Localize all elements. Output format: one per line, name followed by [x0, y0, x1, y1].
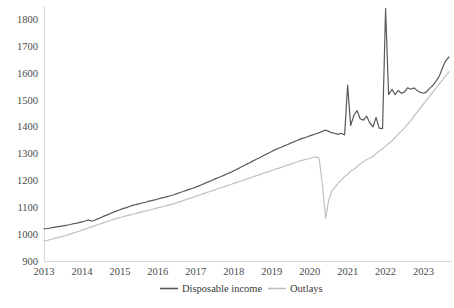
x-tick-label: 2015 — [109, 266, 130, 277]
legend-label-disposable-income: Disposable income — [182, 283, 263, 294]
y-tick-label: 1700 — [17, 41, 38, 52]
legend-label-outlays: Outlays — [290, 283, 323, 294]
y-tick-label: 1500 — [17, 95, 38, 106]
x-tick-label: 2021 — [337, 266, 358, 277]
y-tick-label: 1000 — [17, 229, 38, 240]
chart-legend: Disposable incomeOutlays — [160, 283, 323, 294]
y-tick-label: 1400 — [17, 121, 38, 132]
plot-area: 180017001600150014001300120011001000900 … — [0, 0, 454, 308]
x-tick-label: 2020 — [299, 266, 320, 277]
y-tick-label: 1100 — [17, 202, 38, 213]
y-tick-label: 1200 — [17, 175, 38, 186]
y-axis-labels: 180017001600150014001300120011001000900 — [17, 14, 38, 267]
x-tick-label: 2022 — [375, 266, 396, 277]
chart-container: 180017001600150014001300120011001000900 … — [0, 0, 454, 308]
x-tick-label: 2013 — [34, 266, 55, 277]
y-tick-label: 1600 — [17, 68, 38, 79]
x-tick-label: 2014 — [71, 266, 93, 277]
x-axis-labels: 2013201420152016201720182019202020212022… — [34, 266, 435, 277]
x-tick-label: 2019 — [261, 266, 282, 277]
y-tick-label: 900 — [22, 256, 38, 267]
y-tick-label: 1300 — [17, 148, 38, 159]
x-tick-label: 2017 — [185, 266, 206, 277]
series-line-disposable-income — [44, 9, 449, 229]
x-tick-label: 2023 — [413, 266, 434, 277]
line-chart-svg: 180017001600150014001300120011001000900 … — [0, 0, 454, 308]
x-tick-label: 2016 — [147, 266, 168, 277]
x-tick-label: 2018 — [223, 266, 244, 277]
y-tick-label: 1800 — [17, 14, 38, 25]
